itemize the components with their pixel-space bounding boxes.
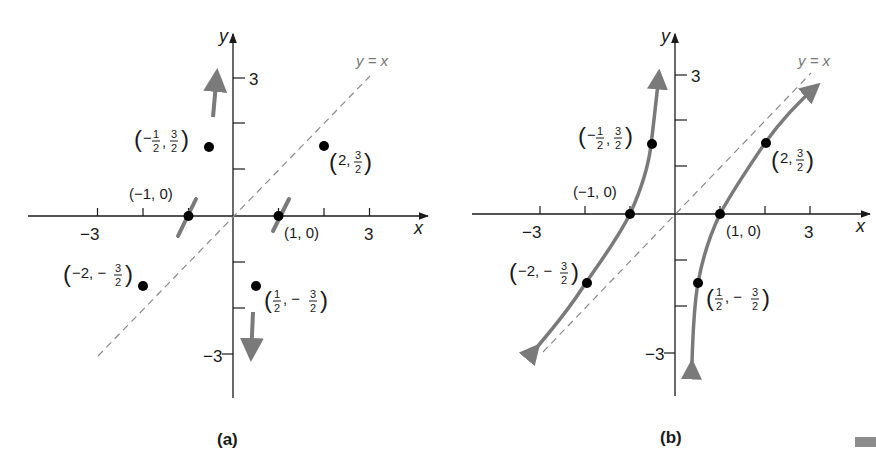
point-label-neg1-0: (−1, 0) (129, 185, 173, 202)
point-label-2-3half: (2, 32 ) (329, 148, 372, 175)
svg-text:): ) (181, 125, 189, 152)
svg-text:): ) (320, 286, 328, 313)
point-label-1-0: (1, 0) (726, 222, 761, 239)
svg-text:(: ( (578, 122, 586, 149)
svg-text:3: 3 (797, 147, 803, 159)
identity-line (543, 73, 811, 352)
svg-text:2: 2 (597, 139, 603, 151)
svg-text:−: − (143, 129, 152, 146)
svg-text:3: 3 (171, 128, 177, 140)
svg-text:1: 1 (153, 128, 159, 140)
svg-text:,: , (162, 133, 166, 150)
svg-text:2: 2 (752, 300, 758, 312)
svg-text:−2, −: −2, − (72, 264, 106, 281)
svg-text:,: , (606, 130, 610, 147)
svg-text:(: ( (264, 286, 272, 313)
point-label-neg-half-3half: (− 12 , 32 ) (134, 125, 189, 154)
svg-text:3: 3 (752, 286, 758, 298)
point-label-neg-half-3half: (− 12 , 32 ) (578, 122, 633, 151)
svg-text:, −: , − (725, 288, 742, 305)
svg-text:2: 2 (716, 300, 722, 312)
svg-text:2,: 2, (780, 149, 793, 166)
tick-label-y-3: 3 (249, 70, 258, 89)
svg-text:(: ( (771, 146, 779, 173)
curve-left-branch (538, 72, 659, 346)
svg-text:): ) (762, 284, 770, 311)
x-axis-label: x (855, 216, 866, 236)
end-of-figure-marker (855, 437, 876, 447)
point-label-half-neg3half: ( 12 , − 32 ) (706, 284, 770, 312)
svg-text:): ) (364, 148, 372, 175)
svg-text:): ) (625, 122, 633, 149)
svg-text:2: 2 (561, 274, 567, 286)
caption-panel-b: (b) (660, 428, 682, 448)
point-label-neg2-neg3half: (−2, − 32 ) (509, 258, 579, 286)
point-label-neg2-neg3half: (−2, − 32 ) (63, 260, 133, 288)
arrow-up-hint (213, 72, 217, 117)
identity-line-label: y = x (797, 52, 831, 69)
svg-text:(: ( (329, 148, 337, 175)
svg-text:3: 3 (355, 149, 361, 161)
svg-text:1: 1 (597, 125, 603, 137)
svg-text:2: 2 (355, 163, 361, 175)
svg-text:3: 3 (615, 125, 621, 137)
x-axis-label: x (413, 218, 424, 238)
tick-label-x-neg3: −3 (80, 225, 99, 244)
svg-text:): ) (125, 260, 133, 287)
svg-text:(: ( (134, 125, 142, 152)
caption-panel-a: (a) (217, 430, 238, 450)
point-label-neg1-0: (−1, 0) (573, 183, 617, 200)
svg-text:, −: , − (283, 290, 300, 307)
svg-text:2: 2 (797, 161, 803, 173)
svg-text:1: 1 (274, 288, 280, 300)
svg-text:(: ( (63, 260, 71, 287)
tick-label-y-3: 3 (691, 67, 700, 86)
identity-line-label: y = x (355, 52, 389, 69)
panel-a: −3 3 3 −3 x y y = x (−1, 0) (1, 0) (− 12… (28, 26, 428, 398)
svg-text:2: 2 (274, 302, 280, 314)
svg-text:−2, −: −2, − (518, 262, 552, 279)
panel-b: −3 3 3 −3 x y y = x (−1, 0) (1, 0) (− 12… (472, 26, 870, 396)
svg-text:): ) (571, 258, 579, 285)
figure-canvas: −3 3 3 −3 x y y = x (−1, 0) (1, 0) (− 12… (0, 0, 876, 468)
arrow-down-hint (251, 312, 253, 358)
svg-text:3: 3 (310, 288, 316, 300)
tick-label-x-3: 3 (364, 225, 373, 244)
y-axis-label: y (217, 26, 229, 46)
point-label-1-0: (1, 0) (284, 224, 319, 241)
point-label-half-neg3half: ( 12 , − 32 ) (264, 286, 328, 314)
y-axis-label: y (659, 26, 671, 46)
svg-text:3: 3 (561, 260, 567, 272)
tick-label-y-neg3: −3 (645, 345, 664, 364)
svg-text:): ) (806, 146, 814, 173)
svg-text:1: 1 (716, 286, 722, 298)
svg-text:2: 2 (153, 142, 159, 154)
svg-text:2: 2 (615, 139, 621, 151)
svg-text:(: ( (509, 258, 517, 285)
svg-text:3: 3 (115, 262, 121, 274)
svg-text:−: − (587, 126, 596, 143)
tick-label-x-neg3: −3 (522, 223, 541, 242)
tick-label-x-3: 3 (804, 223, 813, 242)
svg-text:2: 2 (171, 142, 177, 154)
svg-text:(: ( (706, 284, 714, 311)
svg-text:2: 2 (115, 276, 121, 288)
point-label-2-3half: (2, 32 ) (771, 146, 814, 173)
svg-text:2,: 2, (338, 151, 351, 168)
svg-text:2: 2 (310, 302, 316, 314)
tick-label-y-neg3: −3 (203, 347, 222, 366)
